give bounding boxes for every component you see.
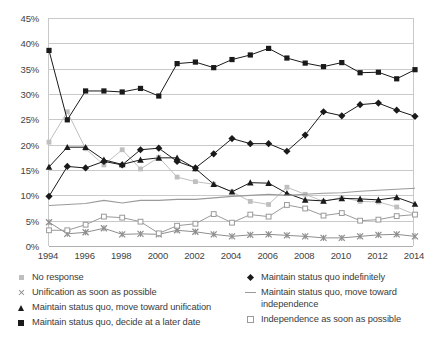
data-point-marker: [376, 217, 381, 222]
x-axis-tick-label: 1996: [74, 250, 94, 261]
y-axis-tick-label: 30%: [21, 89, 39, 100]
data-point-marker: [100, 158, 107, 165]
data-point-marker: [156, 231, 161, 236]
data-point-marker: [375, 100, 382, 107]
gridline-0: [49, 246, 413, 247]
y-axis-tick-label: 10%: [21, 190, 39, 201]
data-point-marker: [303, 60, 308, 65]
data-point-marker: [394, 214, 399, 219]
legend-item[interactable]: Maintain status quo, move toward unifica…: [14, 302, 242, 314]
data-point-marker: [138, 219, 143, 224]
data-point-marker: [394, 76, 399, 81]
square-open-icon: [243, 314, 257, 326]
y-axis-tick-label: 20%: [21, 139, 39, 150]
x-axis-tick-label: 1994: [38, 250, 58, 261]
data-point-marker: [248, 199, 253, 204]
legend-item[interactable]: Maintain status quo, move toward indepen…: [243, 287, 421, 310]
data-point-marker: [230, 220, 235, 225]
legend-label: Independence as soon as possible: [261, 314, 421, 326]
legend-label: Maintain status quo, decide at a later d…: [32, 317, 242, 329]
y-axis-tick-label: 35%: [21, 63, 39, 74]
data-point-marker: [102, 214, 107, 219]
data-point-marker: [376, 70, 381, 75]
x-axis-tick-label: 2004: [221, 250, 241, 261]
series-maintain-status-quo-indefinitely: [45, 100, 418, 200]
legend-item[interactable]: Independence as soon as possible: [243, 314, 421, 326]
data-point-marker: [285, 185, 290, 190]
data-point-marker: [394, 205, 399, 210]
legend-item[interactable]: Unification as soon as possible: [14, 287, 242, 299]
x-axis-tick-label: 2014: [404, 250, 424, 261]
data-point-marker: [393, 194, 400, 200]
data-point-marker: [321, 213, 326, 218]
diamond-black-icon: [243, 272, 257, 284]
data-point-marker: [393, 107, 400, 114]
legend-label: Maintain status quo, move toward unifica…: [32, 302, 242, 314]
x-axis-tick-label: 2000: [148, 250, 168, 261]
data-point-marker: [82, 164, 89, 171]
chart-legend: No responseUnification as soon as possib…: [0, 272, 422, 347]
data-point-marker: [412, 201, 419, 207]
data-point-marker: [358, 70, 363, 75]
data-point-marker: [47, 140, 52, 145]
data-point-marker: [357, 101, 364, 108]
data-point-marker: [138, 167, 143, 172]
data-point-marker: [193, 59, 198, 64]
line-gray-icon: [243, 287, 257, 299]
data-point-marker: [120, 147, 125, 152]
data-point-marker: [156, 93, 161, 98]
x-axis-tick-label: 2012: [367, 250, 387, 261]
y-axis: 0%5%10%15%20%25%30%35%40%45%: [0, 18, 44, 246]
x-axis-tick-label: 1998: [111, 250, 131, 261]
data-point-marker: [46, 48, 51, 53]
data-point-marker: [83, 88, 88, 93]
data-point-marker: [338, 112, 345, 119]
data-point-marker: [65, 228, 70, 233]
series-maintain-status-quo-move-toward-unification: [46, 144, 419, 207]
series-maintain-status-quo-decide-at-a-later-date: [46, 46, 417, 123]
data-point-marker: [411, 113, 418, 120]
x-axis-tick-label: 2006: [257, 250, 277, 261]
data-point-marker: [285, 203, 290, 208]
data-point-marker: [248, 52, 253, 57]
legend-item[interactable]: Maintain status quo, decide at a later d…: [14, 317, 242, 329]
legend-item[interactable]: Maintain status quo indefinitely: [243, 272, 421, 284]
data-point-marker: [266, 214, 271, 219]
data-point-marker: [248, 212, 253, 217]
square-black-icon: [14, 317, 28, 329]
series-line: [49, 103, 415, 196]
data-point-marker: [193, 179, 198, 184]
y-axis-tick-label: 5%: [26, 215, 39, 226]
triangle-black-icon: [14, 302, 28, 314]
legend-item[interactable]: No response: [14, 272, 242, 284]
x-axis-tick-label: 2010: [331, 250, 351, 261]
x-mark-gray-icon: [14, 287, 28, 299]
legend-label: Unification as soon as possible: [32, 287, 242, 299]
legend-label: Maintain status quo, move toward indepen…: [261, 287, 421, 310]
data-point-marker: [47, 228, 52, 233]
data-point-marker: [138, 86, 143, 91]
data-point-marker: [211, 212, 216, 217]
data-point-marker: [175, 175, 180, 180]
plot-area: [48, 18, 414, 246]
data-point-marker: [65, 117, 70, 122]
data-point-marker: [120, 89, 125, 94]
data-point-marker: [45, 193, 52, 200]
y-axis-tick-label: 15%: [21, 165, 39, 176]
square-gray-icon: [14, 272, 28, 284]
legend-column-right: Maintain status quo indefinitelyMaintain…: [243, 272, 421, 329]
data-point-marker: [321, 64, 326, 69]
data-point-marker: [413, 212, 418, 217]
data-point-marker: [211, 65, 216, 70]
data-point-marker: [193, 221, 198, 226]
x-axis-tick-label: 2008: [294, 250, 314, 261]
data-point-marker: [83, 222, 88, 227]
data-point-marker: [284, 55, 289, 60]
data-point-marker: [64, 163, 71, 170]
data-point-marker: [155, 145, 162, 152]
data-point-marker: [266, 202, 271, 207]
data-point-marker: [120, 215, 125, 220]
data-point-marker: [247, 140, 254, 147]
data-point-marker: [303, 206, 308, 211]
